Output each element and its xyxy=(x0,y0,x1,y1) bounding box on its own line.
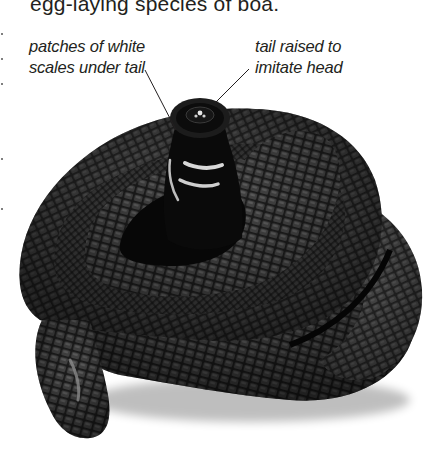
leader-line-tail-raised xyxy=(215,69,249,103)
annotation-line: tail raised to xyxy=(255,36,343,57)
annotation-line: patches of white xyxy=(29,36,145,57)
annotation-line: imitate head xyxy=(255,57,343,78)
annotation-tail-raised: tail raised to imitate head xyxy=(255,36,343,78)
annotation-line: scales under tail xyxy=(29,57,145,78)
annotation-white-scales: patches of white scales under tail xyxy=(29,36,145,78)
